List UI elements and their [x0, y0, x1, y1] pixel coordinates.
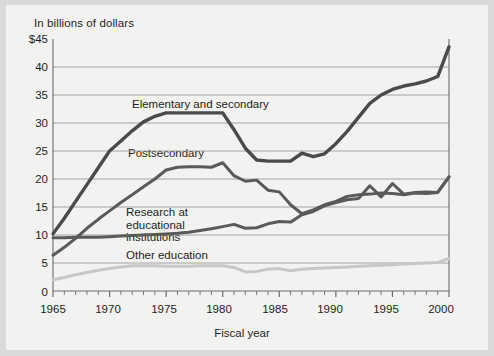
series-line-other-education [53, 259, 449, 280]
series-lines [53, 47, 449, 280]
series-line-postsecondary [53, 163, 449, 255]
minor-tick-marks [53, 291, 449, 297]
figure-background: In billions of dollars $45 40 35 30 25 2… [0, 0, 494, 356]
gridlines [53, 67, 449, 263]
plot-area [6, 5, 488, 350]
chart-panel: In billions of dollars $45 40 35 30 25 2… [6, 5, 488, 350]
series-line-elementary-and-secondary [53, 47, 449, 234]
